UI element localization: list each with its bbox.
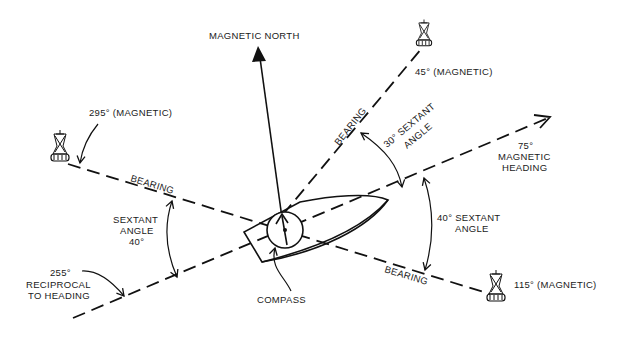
label-40-left-sextant: SEXTANT: [113, 214, 158, 225]
compass-icon: [267, 212, 303, 248]
buoy-295-icon: [51, 130, 69, 161]
sextant-arc-40-left: [167, 201, 177, 277]
label-40-left-degrees: 40°: [129, 236, 144, 247]
label-to-heading: TO HEADING: [28, 290, 90, 301]
sextant-bearing-diagram: MAGNETIC NORTH 45° (MAGNETIC) 295° (MAGN…: [0, 0, 633, 342]
label-heading-magnetic: MAGNETIC: [498, 151, 551, 162]
label-bearing-295: BEARING: [129, 172, 175, 196]
buoy-45-icon: [416, 20, 431, 46]
pointer-295: [80, 124, 98, 163]
sextant-arc-40-right: [424, 178, 432, 270]
buoy-115-icon: [487, 270, 505, 301]
label-bearing-45: BEARING: [332, 105, 368, 147]
label-heading-degrees: 75°: [518, 140, 533, 151]
label-295-magnetic: 295° (MAGNETIC): [89, 107, 172, 118]
label-bearing-115: BEARING: [383, 263, 429, 287]
label-45-magnetic: 45° (MAGNETIC): [415, 66, 493, 77]
magnetic-north-arrow: [252, 46, 282, 218]
boat-hull: [244, 196, 388, 262]
label-255-degrees: 255°: [50, 267, 71, 278]
label-115-magnetic: 115° (MAGNETIC): [514, 279, 597, 290]
label-compass: COMPASS: [257, 294, 306, 305]
label-40-right-angle: ANGLE: [455, 223, 489, 234]
label-reciprocal: RECIPROCAL: [26, 279, 91, 290]
label-heading-heading: HEADING: [502, 162, 547, 173]
label-40-left-angle: ANGLE: [120, 225, 154, 236]
label-40-right-sextant: 40° SEXTANT: [437, 212, 500, 223]
label-magnetic-north: MAGNETIC NORTH: [209, 30, 300, 41]
